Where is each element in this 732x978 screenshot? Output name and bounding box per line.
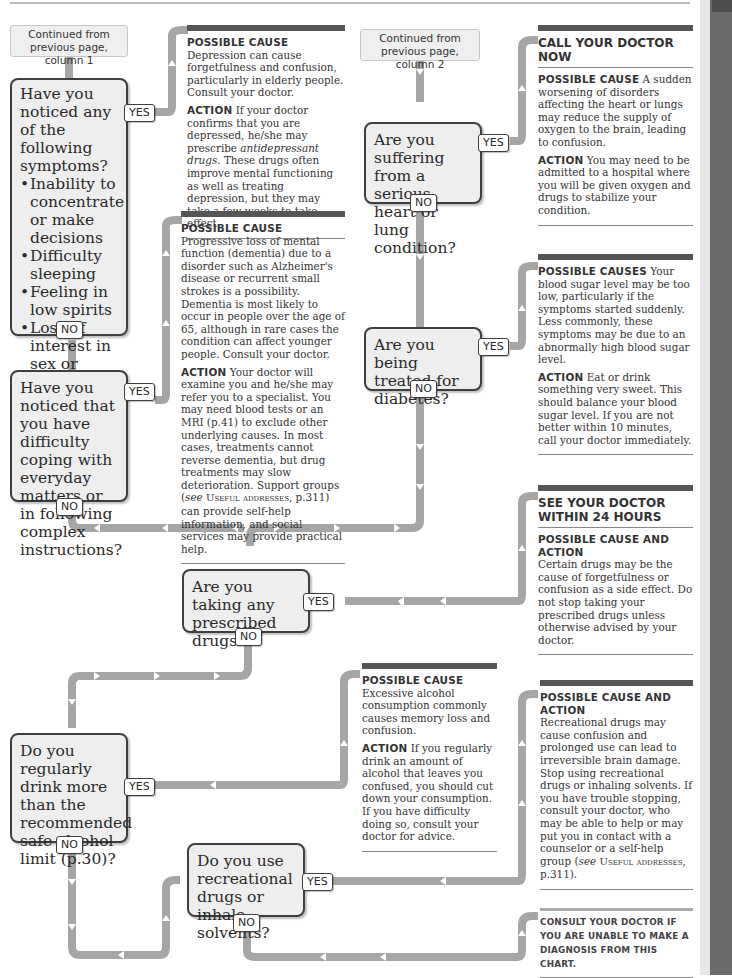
label-action: Action <box>181 366 226 378</box>
recreational-text: Recreational drugs may cause confusion a… <box>540 716 692 867</box>
label-action: Action <box>362 742 407 754</box>
label-possible-cause: Possible cause <box>181 222 282 234</box>
q5-yes-label: YES <box>303 593 334 611</box>
q5-no-label: NO <box>235 628 262 646</box>
q4-yes-label: YES <box>478 338 509 356</box>
q6-no-label: NO <box>56 836 83 854</box>
q1-yes-label: YES <box>124 104 155 122</box>
dementia-action-text: Your doctor will examine you and he/she … <box>181 366 339 504</box>
useful-addresses-link[interactable]: Useful addresses <box>206 492 289 503</box>
symptom-item: Difficulty sleeping <box>20 247 118 283</box>
label-action: Action <box>538 154 583 166</box>
question-recreational-drugs: Do you use recreational drugs or inhale … <box>187 843 305 917</box>
label-possible-cause: Possible cause <box>187 36 288 48</box>
q4-no-label: NO <box>410 380 437 398</box>
connector-q5-no <box>72 640 248 728</box>
label-action: Action <box>538 371 583 383</box>
q6-yes-label: YES <box>124 778 155 796</box>
connector-q7-no <box>247 916 538 957</box>
connector-q1-yes <box>155 30 188 112</box>
panel-alcohol: Possible cause Excessive alcohol consump… <box>362 663 497 852</box>
q3-no-label: NO <box>410 194 437 212</box>
prescribed-drugs-text: Certain drugs may be the cause of forget… <box>538 558 692 646</box>
continued-from-column-1: Continued from previous page, column 1 <box>10 25 128 57</box>
alcohol-cause-text: Excessive alcohol consumption commonly c… <box>362 687 490 737</box>
question-alcohol: Do you regularly drink more than the rec… <box>10 733 128 843</box>
q2-yes-label: YES <box>124 383 155 401</box>
q7-yes-label: YES <box>302 873 333 891</box>
question-prescribed-drugs: Are you taking any prescribed drugs? <box>182 569 310 633</box>
label-possible-cause-and-action: Possible cause and action <box>538 533 693 558</box>
diabetes-cause-text: Your blood sugar level may be too low, p… <box>538 265 690 365</box>
q2-no-label: NO <box>56 498 83 516</box>
alcohol-action-text: If you regularly drink an amount of alco… <box>362 742 493 842</box>
connector-q5-yes <box>345 496 538 601</box>
panel-depression: Possible cause Depression can cause forg… <box>187 25 345 239</box>
depression-cause-text: Depression can cause forgetfulness and c… <box>187 49 343 99</box>
q7-no-label: NO <box>233 914 260 932</box>
panel-diabetes: Possible causes Your blood sugar level m… <box>538 254 693 455</box>
connector-q6-yes <box>155 674 360 785</box>
panel-recreational-drugs: Possible cause and actionRecreational dr… <box>540 680 693 890</box>
label-action: Action <box>187 104 232 116</box>
urgency-heading: SEE YOUR DOCTOR WITHIN 24 HOURS <box>538 496 693 528</box>
urgency-heading: CALL YOUR DOCTOR NOW <box>538 36 693 68</box>
question-symptoms-text: Have you noticed any of the following sy… <box>20 85 118 175</box>
see-reference: see <box>579 855 597 867</box>
question-heart-lung: Are you suffering from a serious heart o… <box>364 122 482 204</box>
connector-q4-yes <box>510 266 538 346</box>
question-coping: Have you noticed that you have difficult… <box>10 370 128 502</box>
useful-addresses-link[interactable]: Useful addresses <box>600 856 683 867</box>
symptom-item: Inability to concentrate or make decisio… <box>20 175 118 247</box>
connector-q2-yes <box>155 220 182 400</box>
label-possible-causes: Possible causes <box>538 265 647 277</box>
q3-yes-label: YES <box>478 134 509 152</box>
label-possible-cause: Possible cause <box>362 674 463 686</box>
panel-dementia: Possible cause Progressive loss of menta… <box>181 211 345 564</box>
panel-consult-doctor: Consult your doctor if you are unable to… <box>540 908 693 978</box>
question-symptoms: Have you noticed any of the following sy… <box>10 78 128 336</box>
symptom-item: Feeling in low spirits <box>20 283 118 319</box>
see-reference: see <box>185 491 203 503</box>
label-possible-cause: Possible cause <box>538 73 639 85</box>
continued-from-column-2: Continued from previous page, column 2 <box>360 29 480 61</box>
panel-heart-lung: CALL YOUR DOCTOR NOW Possible cause A su… <box>538 25 693 226</box>
q1-no-label: NO <box>56 321 83 339</box>
panel-prescribed-drugs: SEE YOUR DOCTOR WITHIN 24 HOURS Possible… <box>538 485 693 655</box>
label-possible-cause-and-action: Possible cause and action <box>540 691 693 716</box>
dementia-cause-text: Progressive loss of mental function (dem… <box>181 235 345 360</box>
